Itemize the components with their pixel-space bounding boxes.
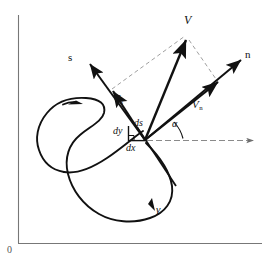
parallelogram-dashed: [112, 36, 218, 89]
label-normal-component-base: V: [192, 98, 199, 110]
label-angle-alpha: α: [172, 119, 177, 129]
figure-canvas: V s n Vs Vn ds dy dx α γ 0: [0, 0, 268, 266]
label-normal-component: Vn: [192, 99, 203, 111]
label-dx-element: dx: [126, 143, 135, 153]
label-normal-component-subscript: n: [199, 104, 203, 111]
label-dy-element: dy: [113, 126, 122, 136]
label-tangent-unit: s: [68, 52, 72, 63]
label-tangential-component: Vs: [113, 93, 123, 105]
dashed-line-vs-to-v: [112, 36, 185, 89]
label-velocity: V: [184, 14, 191, 26]
dashed-line-v-to-vn: [189, 40, 218, 82]
label-contour-gamma: γ: [156, 204, 160, 215]
label-normal-unit: n: [245, 49, 251, 60]
tangent-line-segment: [137, 127, 176, 186]
label-origin: 0: [7, 245, 12, 255]
label-tangential-component-base: V: [113, 92, 120, 104]
axis-frame: [18, 15, 262, 244]
contour-direction-arrow-lower: [148, 198, 155, 211]
diagram-svg: [0, 0, 268, 266]
contour-curve: [37, 98, 172, 222]
label-tangential-component-subscript: s: [120, 98, 123, 105]
label-arc-element: ds: [134, 118, 143, 128]
